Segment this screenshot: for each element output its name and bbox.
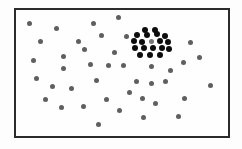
cluster-dot — [150, 45, 156, 51]
scatter-dot — [149, 64, 154, 69]
scatter-dot — [43, 97, 48, 102]
cluster-dot — [159, 45, 165, 51]
cluster-dot — [134, 32, 140, 38]
cluster-dot — [144, 32, 150, 38]
cluster-dot — [165, 39, 171, 45]
scatter-dot — [140, 96, 145, 101]
scatter-dot — [163, 79, 168, 84]
scatter-dot — [168, 68, 173, 73]
scatter-dot — [141, 115, 146, 120]
cluster-dot — [147, 52, 153, 58]
scatter-dot — [134, 79, 139, 84]
scatter-dot — [81, 104, 86, 109]
scatter-dot — [153, 101, 158, 106]
scatter-dot — [91, 21, 96, 26]
scatter-dot — [188, 40, 193, 45]
scatter-dot — [124, 34, 129, 39]
cluster-dot — [131, 38, 137, 44]
scatter-dot — [112, 50, 117, 55]
scatter-dot — [116, 15, 121, 20]
cluster-center-dot — [149, 39, 154, 44]
scatter-dot — [61, 66, 66, 71]
scatter-dot — [182, 96, 187, 101]
cluster-dot — [137, 52, 143, 58]
scatter-dot — [34, 76, 39, 81]
scatter-dot — [88, 62, 93, 67]
cluster-dot — [154, 31, 160, 37]
scatter-dot — [76, 39, 81, 44]
figure-root — [0, 0, 242, 149]
cluster-dot — [157, 38, 163, 44]
scatter-dot — [96, 122, 101, 127]
scatter-dot — [69, 86, 74, 91]
scatter-dot — [38, 39, 43, 44]
cluster-dot — [166, 46, 172, 52]
cluster-dot — [132, 45, 138, 51]
cluster-dot — [157, 52, 163, 58]
scatter-dot — [94, 78, 99, 83]
scatter-dot — [121, 63, 126, 68]
dot-layer — [14, 8, 230, 138]
scatter-dot — [82, 47, 87, 52]
scatter-dot — [54, 26, 59, 31]
scatter-dot — [197, 55, 202, 60]
scatter-dot — [99, 33, 104, 38]
scatter-dot — [149, 81, 154, 86]
scatter-dot — [127, 90, 132, 95]
scatter-dot — [59, 105, 64, 110]
scatter-dot — [27, 21, 32, 26]
scatter-dot — [104, 97, 109, 102]
scatter-dot — [117, 108, 122, 113]
cluster-dot — [141, 45, 147, 51]
plot-frame — [14, 8, 230, 138]
scatter-dot — [208, 83, 213, 88]
scatter-dot — [176, 114, 181, 119]
scatter-dot — [31, 58, 36, 63]
scatter-dot — [50, 84, 55, 89]
scatter-dot — [106, 63, 111, 68]
scatter-dot — [61, 54, 66, 59]
scatter-dot — [181, 60, 186, 65]
